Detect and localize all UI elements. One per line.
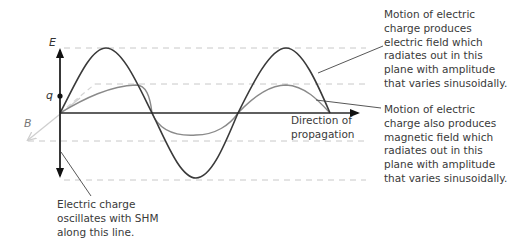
annotation-line: plane with amplitude (384, 63, 507, 77)
annotation-line: radiates out in this (384, 144, 507, 158)
b-wave (60, 85, 330, 135)
charge-annotation-leader (61, 152, 91, 196)
electric-field-annotation: Motion of electric charge produces elect… (384, 8, 507, 91)
annotation-line: oscillates with SHM (57, 212, 158, 226)
annotation-line: charge produces (384, 22, 507, 36)
annotation-line: Motion of electric (384, 8, 507, 22)
b-axis-extension (60, 84, 95, 113)
annotation-line: electric field which (384, 36, 507, 50)
annotation-line: Electric charge (57, 198, 158, 212)
e-annotation-leader (318, 46, 383, 73)
annotation-line: that varies sinusoidally. (384, 77, 507, 91)
annotation-line: magnetic field which (384, 131, 507, 145)
propagation-label: Direction of propagation (291, 114, 355, 142)
annotation-line: radiates out in this (384, 49, 507, 63)
b-axis (28, 98, 80, 140)
annotation-line: that varies sinusoidally. (384, 172, 507, 186)
annotation-line: plane with amplitude (384, 158, 507, 172)
magnetic-field-annotation: Motion of electric charge also produces … (384, 103, 507, 186)
charge-annotation: Electric charge oscillates with SHM alon… (57, 198, 158, 239)
e-axis-label: E (49, 36, 56, 49)
propagation-label-line: propagation (291, 128, 355, 142)
annotation-line: along this line. (57, 226, 158, 240)
charge-dot (57, 93, 62, 98)
annotation-line: Motion of electric (384, 103, 507, 117)
propagation-label-line: Direction of (291, 114, 355, 128)
charge-label: q (46, 89, 53, 102)
b-axis-label: B (24, 117, 32, 130)
annotation-line: charge also produces (384, 117, 507, 131)
